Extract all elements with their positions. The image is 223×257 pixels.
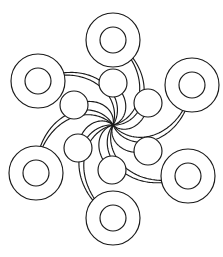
ring-lower-right-inner-circle [175, 163, 201, 189]
ring-bottom-inner-circle [100, 205, 126, 231]
ring-lower-right[interactable] [161, 149, 215, 203]
diagram-canvas [0, 0, 223, 257]
radial-pinwheel-diagram [0, 0, 223, 257]
center-hub-layer [111, 123, 114, 126]
center-hub-dot [111, 123, 114, 126]
ring-upper-left[interactable] [11, 54, 65, 108]
ring-upper-right[interactable] [165, 58, 219, 112]
node-right-lower[interactable] [134, 137, 162, 165]
node-right-upper[interactable] [134, 89, 162, 117]
ring-top[interactable] [86, 13, 140, 67]
node-left-upper[interactable] [60, 91, 88, 119]
ring-bottom[interactable] [86, 191, 140, 245]
ring-upper-left-inner-circle [25, 68, 51, 94]
node-left-lower[interactable] [64, 134, 92, 162]
ring-top-inner-circle [100, 27, 126, 53]
ring-lower-left-inner-circle [23, 160, 49, 186]
ring-lower-left[interactable] [9, 146, 63, 200]
node-upper-mid[interactable] [99, 69, 127, 97]
ring-upper-right-inner-circle [179, 72, 205, 98]
node-lower-mid[interactable] [98, 156, 126, 184]
